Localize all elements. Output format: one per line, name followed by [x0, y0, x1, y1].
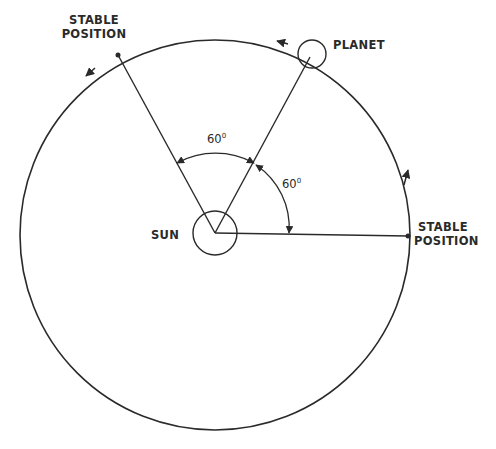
right-stable-label: STABLE POSITION [414, 220, 479, 248]
angle-top-unit: 0 [222, 132, 226, 140]
right-stable-line2: POSITION [414, 234, 479, 248]
orbit-arrow-left [86, 68, 95, 76]
angle-right-unit: 0 [297, 177, 301, 185]
planet-label: PLANET [333, 38, 385, 52]
angle-arc-right [256, 165, 289, 233]
planet-circle [298, 40, 326, 68]
left-stable-label: STABLE POSITION [54, 13, 134, 41]
angle-arc-top [177, 153, 254, 163]
line-sun-to-left-stable [118, 55, 215, 233]
right-stable-line1: STABLE [414, 220, 479, 234]
orbit-arrow-right [404, 170, 408, 185]
orbit-arrow-top [277, 41, 288, 44]
angle-top-value: 60 [207, 132, 222, 146]
sun-label: SUN [151, 228, 179, 242]
angle-top-label: 600 [207, 132, 226, 146]
angle-right-value: 60 [282, 177, 297, 191]
left-stable-line1: STABLE [54, 13, 134, 27]
angle-right-label: 600 [282, 177, 301, 191]
line-sun-to-right-stable [215, 233, 408, 236]
left-stable-point [116, 53, 121, 58]
right-stable-point [406, 234, 411, 239]
left-stable-line2: POSITION [54, 27, 134, 41]
line-sun-to-planet [215, 57, 310, 233]
